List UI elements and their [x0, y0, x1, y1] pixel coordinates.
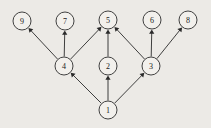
graph-node-3[interactable]: 3: [142, 57, 160, 75]
graph-node-4[interactable]: 4: [55, 57, 73, 75]
edge-3-to-8: [157, 29, 181, 58]
arrowhead-2-to-5: [105, 30, 110, 34]
arrowhead-4-to-7: [62, 31, 67, 35]
edge-4-to-7: [64, 33, 65, 56]
node-circle-4[interactable]: [55, 57, 73, 75]
node-circle-9[interactable]: [13, 12, 31, 30]
edge-3-to-5: [116, 29, 144, 59]
graph-node-6[interactable]: 6: [143, 11, 161, 29]
node-circle-6[interactable]: [143, 11, 161, 29]
edge-1-to-4: [73, 75, 102, 104]
arrowhead-3-to-6: [149, 30, 154, 34]
graph-node-1[interactable]: 1: [99, 101, 117, 119]
node-circle-5[interactable]: [99, 11, 117, 29]
edge-4-to-9: [30, 30, 57, 59]
node-circle-8[interactable]: [179, 11, 197, 29]
edge-4-to-5: [71, 29, 100, 59]
arrowhead-1-to-2: [105, 76, 110, 80]
graph-node-9[interactable]: 9: [13, 12, 31, 30]
edge-1-to-3: [115, 75, 143, 104]
node-circle-3[interactable]: [142, 57, 160, 75]
nodes-layer: 975684231: [13, 11, 197, 119]
graph-svg: 975684231: [0, 0, 211, 128]
node-circle-2[interactable]: [99, 57, 117, 75]
graph-node-8[interactable]: 8: [179, 11, 197, 29]
node-circle-1[interactable]: [99, 101, 117, 119]
arrowhead-3-to-8: [177, 27, 182, 32]
edge-3-to-6: [151, 32, 152, 56]
graph-diagram-canvas: 975684231: [0, 0, 211, 128]
graph-node-7[interactable]: 7: [56, 12, 74, 30]
graph-node-5[interactable]: 5: [99, 11, 117, 29]
graph-node-2[interactable]: 2: [99, 57, 117, 75]
node-circle-7[interactable]: [56, 12, 74, 30]
